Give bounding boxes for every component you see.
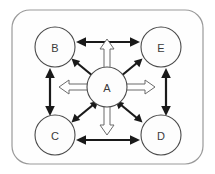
node-e[interactable]: E (141, 27, 181, 67)
node-c-label: C (51, 130, 59, 142)
node-d[interactable]: D (141, 115, 181, 155)
diagram-canvas: B E C D A (0, 0, 215, 174)
node-d-label: D (157, 130, 165, 142)
node-b-label: B (51, 42, 58, 54)
node-c[interactable]: C (35, 115, 75, 155)
node-a[interactable]: A (87, 67, 127, 107)
node-a-label: A (103, 82, 111, 94)
node-relationship-diagram: B E C D A (0, 0, 215, 174)
node-e-label: E (157, 42, 164, 54)
node-b[interactable]: B (35, 27, 75, 67)
